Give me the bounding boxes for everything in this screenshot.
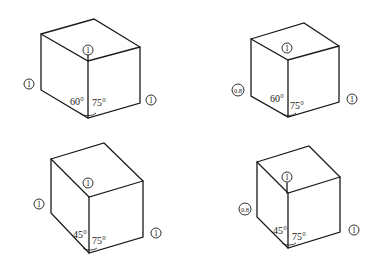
cube-top-front-edges (51, 159, 143, 197)
scale-label-vertical: 1 (86, 179, 90, 188)
scale-label-vertical: 1 (285, 44, 289, 53)
scale-label-vertical: 1 (86, 46, 90, 55)
cube-projection-diagram: 60° 75° 1 1 1 60° 75° 1 0.8 1 45° 75° 1 … (0, 0, 382, 268)
scale-label-left: 0.8 (234, 87, 242, 94)
angle-left-label: 60° (70, 96, 84, 107)
scale-label-left: 1 (37, 200, 41, 209)
angle-right-label: 75° (92, 97, 106, 108)
scale-label-vertical: 1 (285, 173, 289, 182)
cube-bottom-left: 45° 75° 1 1 1 (34, 143, 161, 253)
scale-label-left: 0.8 (241, 206, 249, 213)
angle-right-label: 75° (92, 235, 106, 246)
scale-label-right: 1 (350, 95, 354, 104)
scale-label-left: 1 (27, 80, 31, 89)
scale-label-right: 1 (149, 96, 153, 105)
cube-bottom-right: 45° 75° 1 0.8 1 (239, 146, 359, 248)
cube-top-right: 60° 75° 1 0.8 1 (232, 23, 357, 117)
cube-outline (41, 19, 140, 118)
angle-right-label: 75° (290, 100, 304, 111)
angle-left-label: 45° (73, 229, 87, 240)
cube-top-left: 60° 75° 1 1 1 (24, 19, 156, 118)
cube-top-front-edges (251, 39, 339, 60)
cube-top-front-edges (257, 162, 340, 193)
angle-left-label: 45° (273, 225, 287, 236)
angle-left-label: 60° (270, 93, 284, 104)
angle-right-label: 75° (292, 231, 306, 242)
scale-label-right: 1 (154, 229, 158, 238)
scale-label-right: 1 (352, 226, 356, 235)
